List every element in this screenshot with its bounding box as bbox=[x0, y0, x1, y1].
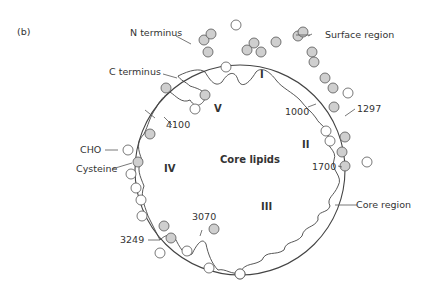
residue-1700: 1700 bbox=[312, 161, 336, 172]
cysteine-label: Cysteine bbox=[76, 163, 117, 174]
c-terminus-label: C terminus bbox=[109, 66, 161, 77]
residue-3249: 3249 bbox=[120, 234, 144, 245]
domain-V: V bbox=[214, 103, 222, 114]
residue-3070: 3070 bbox=[192, 211, 216, 222]
n-terminus-label: N terminus bbox=[130, 27, 182, 38]
panel-label: (b) bbox=[17, 26, 30, 37]
domain-III: III bbox=[261, 201, 272, 212]
residue-1000: 1000 bbox=[285, 106, 309, 117]
surface-region-label: Surface region bbox=[325, 29, 394, 40]
domain-I: I bbox=[260, 69, 264, 80]
core-lipids-label: Core lipids bbox=[220, 154, 280, 165]
residue-1297: 1297 bbox=[357, 103, 381, 114]
domain-IV: IV bbox=[164, 163, 176, 174]
cho-label: CHO bbox=[80, 144, 101, 155]
ldl-apob-diagram: (b) N terminus C terminus Surface region… bbox=[0, 0, 441, 289]
cysteine-residues bbox=[133, 27, 350, 243]
residue-4100: 4100 bbox=[166, 119, 190, 130]
core-region-label: Core region bbox=[356, 199, 411, 210]
domain-II: II bbox=[302, 139, 309, 150]
